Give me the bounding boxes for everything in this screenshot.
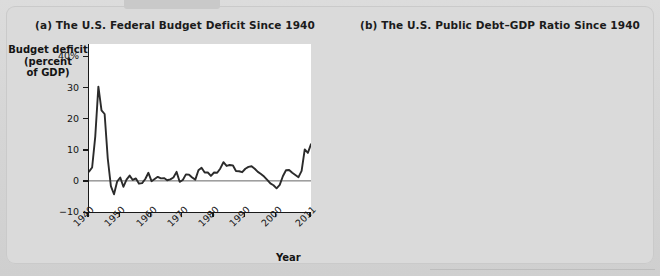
- chart-a-y-tick-label: 20: [10, 113, 79, 124]
- chart-a-title: (a) The U.S. Federal Budget Deficit Sinc…: [0, 19, 330, 31]
- chart-a-x-axis-name: Year: [276, 252, 301, 263]
- chart-a-y-tick-label: 40%: [10, 50, 79, 61]
- chart-a-y-tick-mark: [83, 56, 88, 57]
- chart-a-series-line: [89, 44, 311, 212]
- chart-a-y-tick-mark: [83, 87, 88, 88]
- chart-a-y-tick-label: −10: [10, 206, 79, 217]
- chart-a-y-tick-label: 30: [10, 82, 79, 93]
- chart-a-y-tick-mark: [83, 118, 88, 119]
- chart-a-y-tick-mark: [83, 180, 88, 181]
- chart-a-y-tick-mark: [83, 149, 88, 150]
- chart-b-public-debt-gdp-ratio: (b) The U.S. Public Debt–GDP Ratio Since…: [330, 0, 660, 276]
- chart-a-federal-budget-deficit: (a) The U.S. Federal Budget Deficit Sinc…: [0, 0, 330, 276]
- chart-b-title: (b) The U.S. Public Debt–GDP Ratio Since…: [330, 19, 660, 31]
- chart-a-y-tick-label: 0: [10, 175, 79, 186]
- chart-a-plot-area: [88, 44, 311, 213]
- chart-a-y-axis-label-line-3: of GDP): [8, 67, 88, 79]
- chart-a-y-tick-label: 10: [10, 144, 79, 155]
